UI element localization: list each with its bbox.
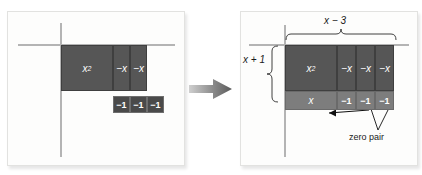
- tile-neg-x-1: −x: [337, 45, 356, 91]
- tile-label: −x: [133, 63, 144, 74]
- tile-label: −1: [133, 100, 143, 110]
- figure-stage: x2 −x −x −1 −1 −1: [0, 0, 422, 175]
- right-arrow-icon: [189, 78, 233, 100]
- tile-neg-x-3: −x: [375, 45, 394, 91]
- tile-x-squared: x2: [285, 45, 337, 91]
- zero-pair-callout: zero pair: [349, 132, 384, 142]
- tile-label: x: [309, 95, 314, 106]
- dimension-label-height: x + 1: [243, 54, 265, 65]
- tile-neg-x-2: −x: [130, 45, 147, 91]
- tile-x-squared: x2: [61, 45, 113, 91]
- tile-label: −x: [379, 63, 390, 74]
- tile-neg-one-2: −1: [130, 96, 147, 113]
- tile-label: −1: [116, 100, 126, 110]
- right-panel: x2 −x −x −x x −1 −1 −1: [240, 11, 418, 166]
- tile-label: −1: [379, 96, 389, 106]
- tile-neg-one-1: −1: [113, 96, 130, 113]
- right-panel-inner: x2 −x −x −x x −1 −1 −1: [241, 12, 417, 165]
- tile-label: −1: [150, 100, 160, 110]
- tile-label: −1: [341, 96, 351, 106]
- tile-x: x: [285, 91, 337, 110]
- tile-neg-x-2: −x: [356, 45, 375, 91]
- tile-label: −x: [360, 63, 371, 74]
- tile-neg-one-1: −1: [337, 91, 356, 110]
- dimension-label-width: x − 3: [324, 15, 346, 26]
- tile-neg-x-1: −x: [113, 45, 130, 91]
- tile-neg-one-3: −1: [147, 96, 164, 113]
- left-panel: x2 −x −x −1 −1 −1: [7, 11, 185, 166]
- tile-label: −x: [341, 63, 352, 74]
- tile-exponent: 2: [88, 65, 92, 72]
- tile-label: −1: [360, 96, 370, 106]
- tile-neg-one-3: −1: [375, 91, 394, 110]
- tile-label: −x: [116, 63, 127, 74]
- tile-neg-one-2: −1: [356, 91, 375, 110]
- tile-exponent: 2: [312, 65, 316, 72]
- left-panel-inner: x2 −x −x −1 −1 −1: [8, 12, 184, 165]
